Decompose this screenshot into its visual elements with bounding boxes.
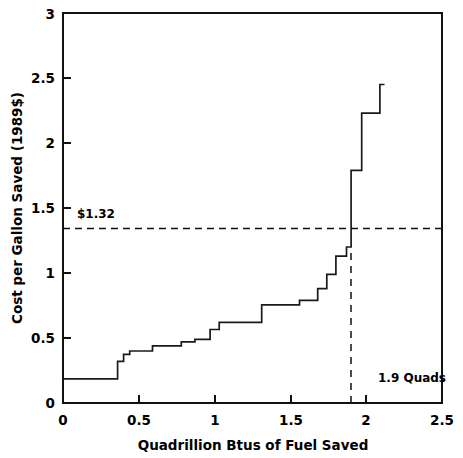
x-tick-label-4: 2 <box>361 412 370 428</box>
y-axis-ticks <box>63 13 71 403</box>
x-tick-label-5: 2.5 <box>430 412 454 428</box>
chart-container: 0 0.5 1 1.5 2 2.5 3 0 0.5 1 1.5 2 2.5 Q <box>0 0 463 458</box>
x-tick-label-0: 0 <box>58 412 67 428</box>
y-tick-label-0: 0 <box>46 395 55 411</box>
y-tick-label-1: 0.5 <box>31 330 55 346</box>
x-tick-label-2: 1 <box>210 412 219 428</box>
price-annotation-label: $1.32 <box>77 207 115 221</box>
x-axis-ticks <box>63 395 442 403</box>
x-axis-title: Quadrillion Btus of Fuel Saved <box>138 437 369 453</box>
x-tick-label-1: 0.5 <box>127 412 151 428</box>
x-tick-label-3: 1.5 <box>279 412 303 428</box>
y-tick-label-3: 1.5 <box>31 200 55 216</box>
y-tick-label-6: 3 <box>46 6 55 22</box>
chart-canvas: 0 0.5 1 1.5 2 2.5 3 0 0.5 1 1.5 2 2.5 Q <box>0 0 463 458</box>
supply-curve-step-path <box>63 85 385 379</box>
quantity-annotation-label: 1.9 Quads <box>378 371 446 385</box>
y-tick-label-2: 1 <box>46 265 55 281</box>
y-axis-title: Cost per Gallon Saved (1989$) <box>9 92 25 324</box>
x-axis-tick-labels: 0 0.5 1 1.5 2 2.5 <box>58 412 454 428</box>
plot-frame <box>63 13 442 403</box>
y-tick-label-5: 2.5 <box>31 70 55 86</box>
y-axis-tick-labels: 0 0.5 1 1.5 2 2.5 3 <box>31 6 55 411</box>
y-tick-label-4: 2 <box>46 135 55 151</box>
